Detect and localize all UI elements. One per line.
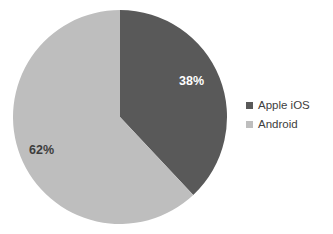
legend-label-apple-ios: Apple iOS <box>258 100 310 112</box>
legend-item-android[interactable]: Android <box>246 115 332 134</box>
legend-item-apple-ios[interactable]: Apple iOS <box>246 96 332 115</box>
legend-swatch-icon-apple-ios <box>246 102 253 109</box>
legend-swatch-icon-android <box>246 121 253 128</box>
pie-plot-area: 38% 62% <box>0 0 240 234</box>
pie-chart: 38% 62% Apple iOS Android <box>0 0 333 234</box>
legend-label-android: Android <box>258 119 298 131</box>
slice-value-label-android: 62% <box>29 143 54 157</box>
pie-graphic <box>0 0 240 234</box>
chart-legend: Apple iOS Android <box>246 96 332 134</box>
slice-value-label-apple-ios: 38% <box>179 74 204 88</box>
